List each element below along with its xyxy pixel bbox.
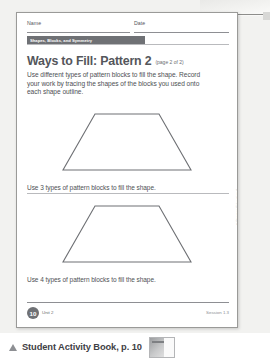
trapezoid-outline-icon xyxy=(61,110,193,172)
date-label: Date xyxy=(134,20,145,26)
footer-session-label: Session 1.3 xyxy=(206,310,229,315)
problem-1-shape-area[interactable] xyxy=(27,106,229,176)
unit-banner: Shapes, Blocks, and Symmetry xyxy=(27,36,145,44)
problem-1-divider xyxy=(27,193,229,194)
figure-caption-text: Student Activity Book, p. 10 xyxy=(22,342,142,352)
page-title: Ways to Fill: Pattern 2 xyxy=(27,54,151,68)
name-label: Name xyxy=(27,20,41,26)
name-write-line xyxy=(27,32,130,33)
page-thumbnail-icon[interactable] xyxy=(149,337,175,358)
worksheet-sheet: Name Date Shapes, Blocks, and Symmetry W… xyxy=(16,12,238,328)
problem-2: Use 4 types of pattern blocks to fill th… xyxy=(27,198,229,286)
date-write-line xyxy=(134,32,229,33)
instructions-text: Use different types of pattern blocks to… xyxy=(27,71,203,97)
figure-caption-bar: Student Activity Book, p. 10 xyxy=(0,333,270,361)
problem-1: Use 3 types of pattern blocks to fill th… xyxy=(27,106,229,194)
page-corner-nib xyxy=(263,12,270,20)
worksheet-content: Name Date Shapes, Blocks, and Symmetry W… xyxy=(27,20,229,322)
page-number-badge: 10 xyxy=(27,307,39,319)
trapezoid-outline-icon xyxy=(61,202,193,264)
name-date-row: Name Date xyxy=(27,20,229,35)
worksheet-footer: 10 Unit 2 Session 1.3 xyxy=(27,302,229,322)
problem-1-caption: Use 3 types of pattern blocks to fill th… xyxy=(27,184,156,191)
side-copyright-text: © Pearson Education 4 xyxy=(236,189,238,225)
unit-banner-rule xyxy=(27,44,229,45)
problem-2-shape-area[interactable] xyxy=(27,198,229,268)
worksheet-title-row: Ways to Fill: Pattern 2 (page 2 of 2) xyxy=(27,54,229,68)
footer-rule xyxy=(27,302,229,303)
problem-2-caption: Use 4 types of pattern blocks to fill th… xyxy=(27,276,156,283)
screenshot-root: Name Date Shapes, Blocks, and Symmetry W… xyxy=(0,0,270,361)
page-title-subnote: (page 2 of 2) xyxy=(155,59,183,65)
footer-unit-label: Unit 2 xyxy=(42,310,53,315)
unit-banner-label: Shapes, Blocks, and Symmetry xyxy=(30,37,92,42)
triangle-up-icon xyxy=(9,344,17,351)
